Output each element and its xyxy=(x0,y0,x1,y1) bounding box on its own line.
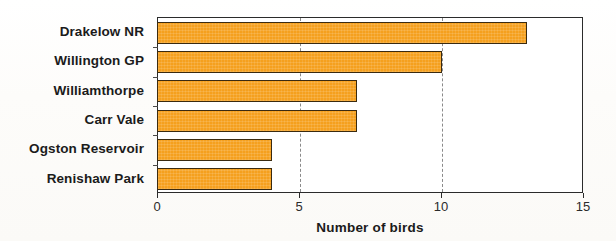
category-label-renishaw-park: Renishaw Park xyxy=(47,164,144,193)
bar-row xyxy=(158,135,272,164)
bar-row xyxy=(158,165,272,194)
x-axis-title: Number of birds xyxy=(157,220,583,235)
category-label-willington-gp: Willington GP xyxy=(54,46,144,75)
bar-row xyxy=(158,106,357,135)
x-axis-tick-label-5: 5 xyxy=(295,199,302,214)
x-axis-tick-10 xyxy=(441,193,442,198)
bar xyxy=(157,51,442,73)
bar xyxy=(157,22,527,44)
category-label-carr-vale: Carr Vale xyxy=(85,105,144,134)
plot-area xyxy=(157,17,583,193)
bar-chart: Drakelow NRWillington GPWilliamthorpeCar… xyxy=(0,0,616,241)
category-label-drakelow-nr: Drakelow NR xyxy=(60,17,144,46)
category-label-williamthorpe: Williamthorpe xyxy=(54,76,144,105)
bar-row xyxy=(158,18,527,47)
x-axis-tick-5 xyxy=(299,193,300,198)
x-axis-tick-label-10: 10 xyxy=(434,199,448,214)
bar xyxy=(157,110,357,132)
category-label-ogston-reservoir: Ogston Reservoir xyxy=(29,134,144,163)
x-axis-tick-label-0: 0 xyxy=(153,199,160,214)
bar xyxy=(157,139,272,161)
bar-row xyxy=(158,47,442,76)
x-axis: 051015 xyxy=(157,193,583,223)
bar xyxy=(157,168,272,190)
category-axis: Drakelow NRWillington GPWilliamthorpeCar… xyxy=(0,17,152,193)
x-axis-tick-15 xyxy=(583,193,584,198)
bar-row xyxy=(158,77,357,106)
bar xyxy=(157,80,357,102)
x-axis-tick-label-15: 15 xyxy=(576,199,590,214)
